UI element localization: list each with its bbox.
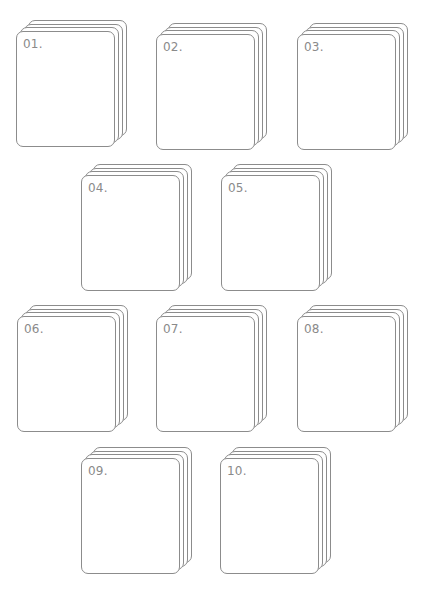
- card-number-label: 05.: [228, 181, 248, 195]
- card-number-label: 02.: [163, 40, 183, 54]
- card-stack-02: 02.: [156, 23, 268, 153]
- card-stack-05: 05.: [221, 164, 333, 294]
- card-stack-10: 10.: [220, 447, 332, 577]
- front-card: 09.: [81, 458, 180, 574]
- front-card: 02.: [156, 34, 255, 150]
- card-number-label: 04.: [88, 181, 108, 195]
- card-stack-03: 03.: [297, 23, 409, 153]
- card-stack-01: 01.: [16, 20, 128, 150]
- front-card: 10.: [220, 458, 319, 574]
- card-stack-04: 04.: [81, 164, 193, 294]
- card-stack-09: 09.: [81, 447, 193, 577]
- card-number-label: 10.: [227, 464, 247, 478]
- front-card: 01.: [16, 31, 115, 147]
- card-stack-06: 06.: [17, 305, 129, 435]
- front-card: 06.: [17, 316, 116, 432]
- front-card: 05.: [221, 175, 320, 291]
- front-card: 04.: [81, 175, 180, 291]
- card-number-label: 09.: [88, 464, 108, 478]
- card-number-label: 08.: [304, 322, 324, 336]
- front-card: 08.: [297, 316, 396, 432]
- front-card: 07.: [156, 316, 255, 432]
- card-number-label: 06.: [24, 322, 44, 336]
- card-stack-08: 08.: [297, 305, 409, 435]
- card-number-label: 07.: [163, 322, 183, 336]
- card-number-label: 01.: [23, 37, 43, 51]
- card-number-label: 03.: [304, 40, 324, 54]
- front-card: 03.: [297, 34, 396, 150]
- card-stack-07: 07.: [156, 305, 268, 435]
